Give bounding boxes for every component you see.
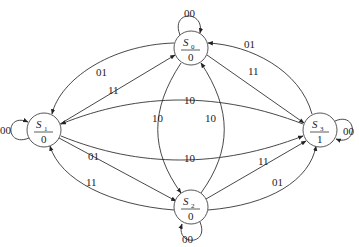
state-output-s2: 0: [188, 210, 194, 222]
label-s2-s3-01: 01: [272, 176, 283, 188]
self-loop-s1: [11, 120, 29, 140]
edge-s3-s1: [61, 100, 303, 124]
state-name-s3: S: [312, 118, 318, 130]
label-s3-self: 00: [343, 125, 355, 137]
edge-s0-s2: [158, 63, 181, 193]
edge-s1-s2: [59, 138, 176, 201]
state-name-s2: S: [183, 195, 189, 207]
state-node-s3: S 3 1: [303, 113, 337, 147]
label-s1-self: 00: [0, 124, 12, 136]
label-s0-s1: 01: [96, 66, 107, 78]
state-diagram: 00 00 00 00 01 11 01 11 10 10 10 10 01 1…: [0, 0, 359, 247]
label-s2-s3-11: 11: [258, 155, 269, 167]
edge-s2-s1: [50, 146, 174, 210]
state-node-s2: S 2 0: [174, 190, 208, 224]
label-s1-s0: 11: [108, 84, 119, 96]
label-s2-s0: 10: [205, 112, 217, 124]
label-s2-self: 00: [182, 233, 194, 245]
edge-s2-s0: [201, 63, 224, 193]
label-s0-s3: 11: [248, 65, 259, 77]
label-s3-s1-top: 10: [184, 94, 196, 106]
state-node-s0: S 0 0: [174, 31, 208, 65]
label-s1-s2: 01: [88, 150, 99, 162]
label-s2-s1: 11: [86, 176, 97, 188]
edge-s0-s1: [52, 43, 174, 114]
edge-s2-s3-11: [206, 141, 306, 199]
label-s0-s2: 10: [152, 112, 164, 124]
state-node-s1: S 1 0: [27, 113, 61, 147]
state-output-s1: 0: [41, 133, 47, 145]
label-s3-s0: 01: [244, 38, 255, 50]
state-name-s1: S: [36, 118, 42, 130]
state-name-s0: S: [183, 36, 189, 48]
label-s1-s3-bottom: 10: [184, 152, 196, 164]
label-s0-self: 00: [184, 7, 196, 19]
state-output-s0: 0: [188, 51, 194, 63]
state-output-s3: 1: [317, 133, 323, 145]
